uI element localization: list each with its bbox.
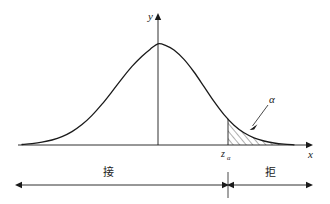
reject-region-ruler <box>227 182 313 188</box>
critical-value-label: z α <box>220 148 231 161</box>
rejection-region-shading <box>228 119 294 145</box>
critical-value-base: z <box>220 148 225 159</box>
y-axis <box>155 13 161 145</box>
alpha-leader-line <box>250 105 269 130</box>
alpha-label: α <box>269 93 275 105</box>
reject-region-label: 拒 <box>265 166 276 179</box>
critical-value-subscript: α <box>227 154 231 161</box>
figure-canvas: y x α z α 接 拒 <box>0 0 330 204</box>
y-axis-label: y <box>147 10 153 22</box>
x-axis-label: x <box>307 148 313 160</box>
normal-distribution-figure: y x α z α 接 拒 <box>0 0 330 204</box>
accept-region-label: 接 <box>103 166 114 179</box>
accept-region-ruler <box>15 182 229 188</box>
